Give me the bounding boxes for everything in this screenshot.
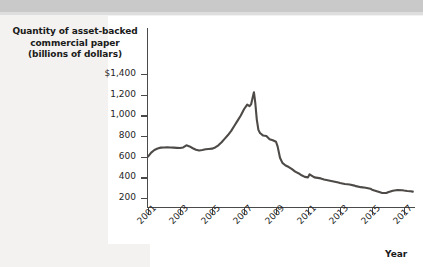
x-axis-title: Year [385, 249, 407, 259]
figure-page: Quantity of asset-backed commercial pape… [0, 0, 423, 267]
plot-area: $1,4001,2001,000800600400200 20012003200… [0, 0, 423, 267]
data-line-chart [0, 0, 423, 267]
series-asset-backed-commercial-paper [148, 92, 413, 193]
